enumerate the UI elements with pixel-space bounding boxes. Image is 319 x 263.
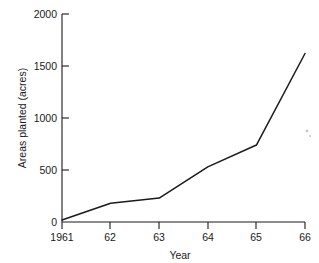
line-chart: 2000 1500 1000 500 0 1961 62 63 64 65 66… [0,0,319,263]
x-tick-label-1961: 1961 [50,231,74,243]
x-tick-label-64: 64 [202,231,214,243]
x-tick-label-66: 66 [299,231,311,243]
x-tick-label-62: 62 [104,231,116,243]
y-tick-label-2000: 2000 [34,8,58,20]
scan-speck [306,130,309,133]
y-tick-label-0: 0 [51,216,57,228]
y-axis-title: Areas planted (acres) [16,68,28,168]
y-tick-label-1500: 1500 [34,60,58,72]
y-tick-label-500: 500 [39,164,57,176]
scan-speck [309,135,311,137]
x-tick-label-65: 65 [250,231,262,243]
x-axis-title: Year [169,249,191,261]
y-tick-label-1000: 1000 [34,112,58,124]
x-tick-label-63: 63 [153,231,165,243]
data-series-line [62,54,305,220]
chart-canvas: 2000 1500 1000 500 0 1961 62 63 64 65 66… [0,0,319,263]
